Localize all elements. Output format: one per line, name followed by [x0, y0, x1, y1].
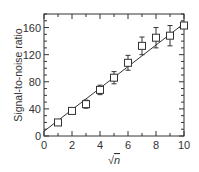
y-tick-label: 0 [35, 130, 41, 142]
y-tick-label: 160 [23, 22, 41, 34]
data-point [153, 28, 160, 48]
data-point [83, 100, 90, 108]
y-tick-label: 120 [23, 49, 41, 61]
data-point [97, 85, 104, 94]
x-tick-label: 2 [69, 139, 75, 151]
data-point [55, 119, 62, 126]
axis-ticks: 024681004080120160 [23, 14, 190, 151]
data-point [69, 107, 76, 114]
x-axis-label: √n [108, 154, 120, 166]
data-point [111, 72, 118, 84]
chart: 024681004080120160 √n Signal-to-noise ra… [0, 0, 199, 172]
data-point [167, 26, 174, 46]
x-tick-label: 4 [97, 139, 103, 151]
data-points [55, 22, 188, 126]
y-tick-label: 80 [29, 76, 41, 88]
y-axis-label: Signal-to-noise ratio [12, 28, 24, 122]
x-tick-label: 0 [41, 139, 47, 151]
x-tick-label: 6 [125, 139, 131, 151]
data-point [139, 37, 146, 55]
x-tick-label: 10 [178, 139, 190, 151]
x-tick-label: 8 [153, 139, 159, 151]
y-tick-label: 40 [29, 103, 41, 115]
data-point [181, 22, 188, 29]
